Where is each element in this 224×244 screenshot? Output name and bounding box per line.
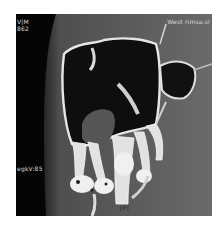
ct-image-frame: V|M 862 West rimsa.sl egkV:85 [P] xyxy=(16,14,212,216)
ct-scan-image xyxy=(16,14,212,216)
slice-number-label: 862 xyxy=(17,25,29,32)
top-left-label: V|M 862 xyxy=(17,18,29,32)
view-mode-label: V|M xyxy=(17,18,29,25)
orientation-marker: [P] xyxy=(120,204,129,211)
top-right-label: West rimsa.sl xyxy=(167,18,210,25)
kv-label: egkV:85 xyxy=(17,165,43,172)
